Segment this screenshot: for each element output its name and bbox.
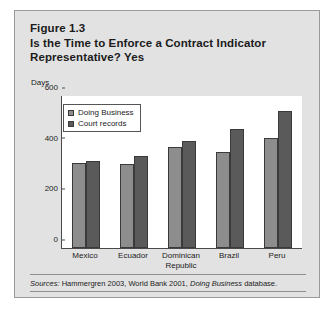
figure-card: Figure 1.3 Is the Time to Enforce a Cont… <box>14 10 320 298</box>
bar <box>230 129 244 248</box>
y-axis-tick-0: 0 <box>54 235 62 244</box>
figure-title-line-2: Representative? Yes <box>30 50 306 65</box>
bar <box>120 164 134 248</box>
x-axis-label: DominicanRepublic <box>157 251 205 270</box>
source-italic-title: Doing Business <box>190 279 242 288</box>
x-axis-label: Mexico <box>61 251 109 270</box>
source-prefix: Sources: <box>30 279 60 288</box>
source-text-part-2: database. <box>242 279 277 288</box>
chart-legend: Doing Business Court records <box>63 104 141 132</box>
legend-label-doing-business: Doing Business <box>78 108 134 117</box>
bar <box>264 138 278 248</box>
figure-title-block: Figure 1.3 Is the Time to Enforce a Cont… <box>30 21 306 65</box>
bar <box>216 152 230 248</box>
bar <box>134 156 148 248</box>
legend-swatch-icon-doing-business <box>68 110 74 116</box>
source-text-part-1: Hammergren 2003, World Bank 2001, <box>60 279 190 288</box>
bar <box>72 163 86 248</box>
y-axis-tick-200: 200 <box>45 184 62 193</box>
bar-group <box>216 96 244 248</box>
x-axis-labels: MexicoEcuadorDominicanRepublicBrazilPeru <box>61 251 301 270</box>
source-note: Sources: Hammergren 2003, World Bank 200… <box>30 279 312 288</box>
figure-number: Figure 1.3 <box>30 21 306 36</box>
legend-item-court-records: Court records <box>68 119 134 128</box>
x-axis-label: Brazil <box>205 251 253 270</box>
x-axis-label: Ecuador <box>109 251 157 270</box>
source-divider-bottom <box>30 291 306 292</box>
bar-group <box>168 96 196 248</box>
y-axis-tick-400: 400 <box>45 133 62 142</box>
y-axis-tick-600: 600 <box>45 83 62 92</box>
bar <box>86 161 100 248</box>
bar <box>278 111 292 248</box>
x-axis-label: Peru <box>253 251 301 270</box>
bar-group <box>264 96 292 248</box>
source-divider-top <box>30 274 306 275</box>
legend-item-doing-business: Doing Business <box>68 108 134 117</box>
legend-label-court-records: Court records <box>78 119 126 128</box>
bar <box>182 141 196 248</box>
figure-title-line-1: Is the Time to Enforce a Contract Indica… <box>30 36 306 51</box>
bar <box>168 147 182 248</box>
legend-swatch-icon-court-records <box>68 121 74 127</box>
